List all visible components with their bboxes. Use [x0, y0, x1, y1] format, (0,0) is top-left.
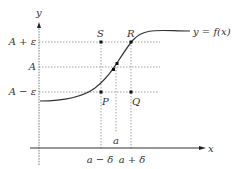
point-R [130, 41, 133, 44]
point-limit [116, 62, 119, 65]
tick-x-a-minus-delta: a − δ [87, 154, 114, 165]
label-P: P [101, 96, 109, 107]
label-Q: Q [132, 96, 140, 107]
x-axis-arrow-icon [199, 146, 206, 150]
epsilon-delta-diagram: y x A + ε A A − ε a − δ a a + δ S R P Q … [0, 0, 240, 169]
label-R: R [126, 28, 135, 39]
curve-label: y = f(x) [192, 26, 231, 37]
tick-a-minus-eps: A − ε [8, 86, 36, 97]
function-curve [40, 30, 190, 101]
label-S: S [97, 28, 104, 39]
tick-a-plus-eps: A + ε [8, 36, 36, 47]
y-axis-label: y [35, 7, 42, 18]
guide-lines [39, 42, 160, 148]
x-axis-label: x [208, 143, 214, 154]
point-Q [130, 91, 133, 94]
point-S [100, 41, 103, 44]
point-P [100, 91, 103, 94]
point-curve-a [112, 68, 115, 71]
y-axis-arrow-icon [37, 22, 41, 28]
tick-a: A [28, 61, 36, 72]
tick-x-a: a [113, 135, 119, 146]
tick-x-a-plus-delta: a + δ [119, 154, 146, 165]
